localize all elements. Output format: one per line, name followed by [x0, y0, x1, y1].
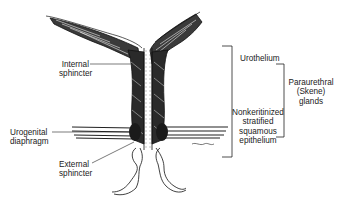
bracket-epithelium — [222, 46, 232, 157]
bladder-wall-left — [46, 16, 142, 62]
leader-external-sphincter — [92, 142, 134, 163]
label-urothelium: Urothelium — [240, 54, 280, 63]
label-nonkeratinized-epithelium: Nonkeritinized stratified squamous epith… — [232, 108, 284, 146]
artist-signature — [192, 143, 214, 144]
label-urogenital-diaphragm: Urogenital diaphragm — [10, 128, 49, 147]
urethral-lumen — [144, 48, 152, 150]
label-internal-sphincter-2: sphincter — [59, 69, 92, 78]
label-external-sphincter: External sphincter — [59, 160, 92, 179]
label-internal-sphincter: Internal — [56, 60, 89, 69]
external-folds — [112, 148, 186, 195]
label-paraurethral-glands: Paraurethral (Skene) glands — [286, 78, 336, 106]
